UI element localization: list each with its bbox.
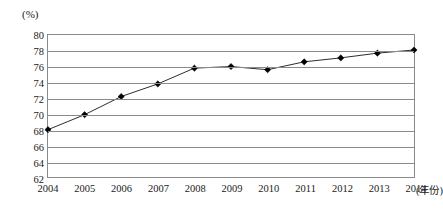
y-tick-label: 68 <box>34 126 45 137</box>
x-axis-unit-label: (年份) <box>416 185 443 196</box>
x-tick-label: 2009 <box>222 183 243 194</box>
series-markers <box>45 47 417 133</box>
gridline-y <box>48 115 414 116</box>
x-tick-label: 2006 <box>111 183 132 194</box>
y-tick-label: 76 <box>34 62 45 73</box>
gridline-y <box>48 163 414 164</box>
y-tick-label: 78 <box>34 46 45 57</box>
x-tick-label: 2011 <box>295 183 316 194</box>
data-point-marker <box>411 47 417 53</box>
x-tick-label: 2007 <box>148 183 169 194</box>
data-point-marker <box>301 59 307 65</box>
plot-area: 6264666870727476788020042005200620072008… <box>47 34 415 178</box>
series-svg <box>48 35 414 177</box>
gridline-y <box>48 131 414 132</box>
y-tick-label: 66 <box>34 142 45 153</box>
gridline-y <box>48 147 414 148</box>
data-point-marker <box>191 65 197 71</box>
y-tick-label: 70 <box>34 110 45 121</box>
gridline-y <box>48 51 414 52</box>
data-point-marker <box>338 55 344 61</box>
y-axis-unit-label: (%) <box>22 8 39 20</box>
x-tick-label: 2005 <box>74 183 95 194</box>
x-tick-label: 2008 <box>185 183 206 194</box>
gridline-y <box>48 67 414 68</box>
x-tick-label: 2004 <box>38 183 59 194</box>
gridline-y <box>48 99 414 100</box>
x-tick-label: 2012 <box>332 183 353 194</box>
y-tick-label: 74 <box>34 78 45 89</box>
series-line <box>48 50 414 130</box>
x-tick-label: 2010 <box>258 183 279 194</box>
x-tick-label: 2013 <box>369 183 390 194</box>
gridline-y <box>48 83 414 84</box>
y-tick-label: 80 <box>34 30 45 41</box>
y-tick-label: 64 <box>34 158 45 169</box>
y-tick-label: 72 <box>34 94 45 105</box>
